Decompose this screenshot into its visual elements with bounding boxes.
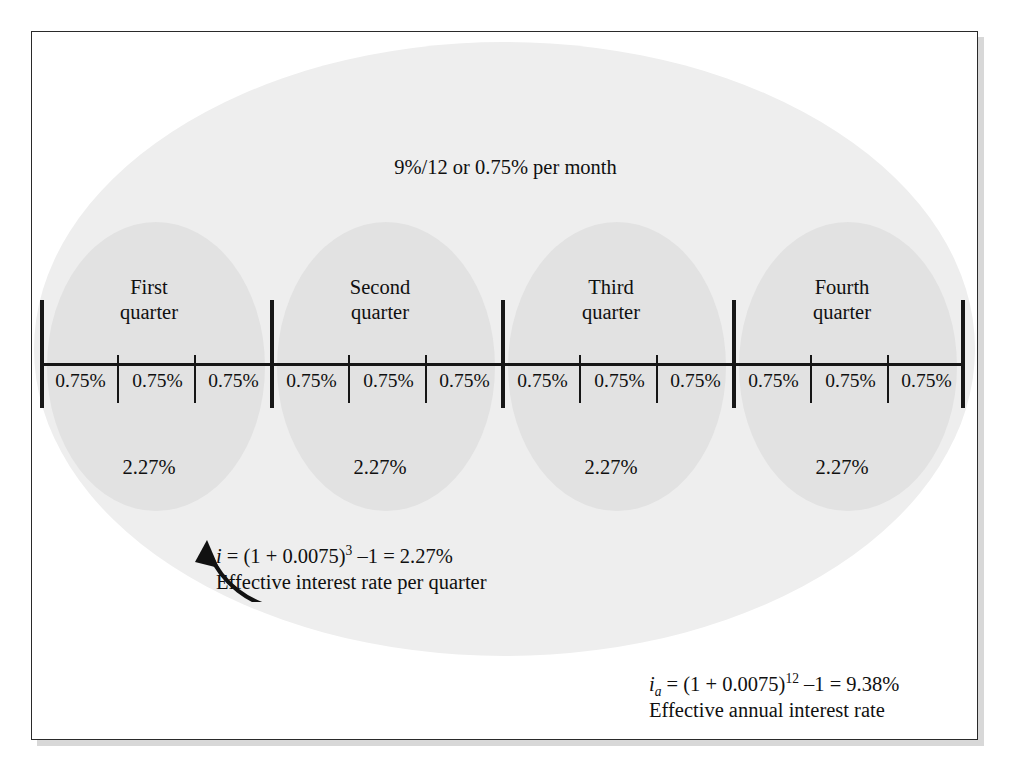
nominal-rate-note: 9%/12 or 0.75% per month [32,156,978,179]
quarter-label-2-line1: Second [271,275,489,300]
quarter-label-3-line1: Third [502,275,720,300]
nominal-rate-note-text: 9%/12 or 0.75% per month [394,156,617,178]
annual-rate-annotation: ia = (1 + 0.0075)12 –1 = 9.38% Effective… [649,672,899,724]
month-rate-1: 0.75% [42,370,119,392]
quarter-label-2: Second quarter [271,275,489,325]
quarter-label-3-line2: quarter [502,300,720,325]
quarter-label-4-line1: Fourth [733,275,951,300]
quarter-rate-4: 2.27% [733,456,951,479]
cash-flow-timeline: 0.75% 0.75% 0.75% 0.75% 0.75% 0.75% 0.75… [32,32,978,740]
month-rate-11: 0.75% [812,370,889,392]
figure-frame: 9%/12 or 0.75% per month First quarter S… [31,31,978,740]
quarter-rate-3: 2.27% [502,456,720,479]
month-rate-5: 0.75% [350,370,427,392]
quarter-label-1: First quarter [40,275,258,325]
quarter-label-1-line2: quarter [40,300,258,325]
month-rate-3: 0.75% [195,370,272,392]
month-rate-4: 0.75% [273,370,350,392]
month-rate-7: 0.75% [504,370,581,392]
quarter-label-3: Third quarter [502,275,720,325]
quarter-label-2-line2: quarter [271,300,489,325]
quarter-label-4: Fourth quarter [733,275,951,325]
month-rate-9: 0.75% [657,370,734,392]
month-rate-8: 0.75% [581,370,658,392]
month-rate-10: 0.75% [735,370,812,392]
annual-rate-formula: ia = (1 + 0.0075)12 –1 = 9.38% [649,672,899,698]
annual-rate-formula-body: = (1 + 0.0075) [661,673,785,695]
quarter-rate-1: 2.27% [40,456,258,479]
month-rate-2: 0.75% [119,370,196,392]
curved-arrow-icon [162,492,312,602]
quarter-label-1-line1: First [40,275,258,300]
month-rate-6: 0.75% [426,370,503,392]
quarter-label-4-line2: quarter [733,300,951,325]
annual-rate-caption: Effective annual interest rate [649,698,899,724]
month-rate-12: 0.75% [888,370,965,392]
annual-rate-formula-tail: –1 = 9.38% [799,673,899,695]
quarter-rate-formula-tail: –1 = 2.27% [352,545,452,567]
quarter-rate-2: 2.27% [271,456,489,479]
figure-canvas: 9%/12 or 0.75% per month First quarter S… [0,0,1009,767]
annual-rate-exponent: 12 [785,671,799,686]
